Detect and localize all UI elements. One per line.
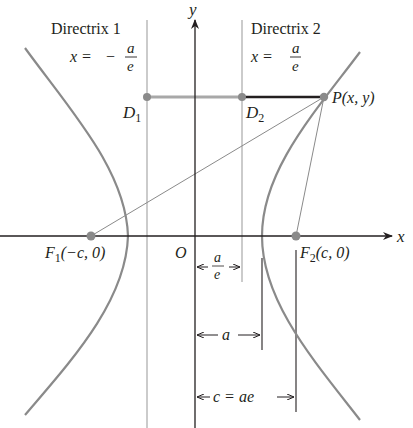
dim-a-over-e-num: a: [214, 250, 221, 265]
directrix-1-eq-sign: −: [106, 48, 115, 65]
point-D2: [238, 93, 246, 101]
x-axis-label: x: [396, 227, 405, 246]
F1-label: F1(−c, 0): [44, 244, 105, 265]
directrix-2-title: Directrix 2: [251, 20, 321, 37]
point-F2: [292, 232, 301, 241]
y-axis-label: y: [187, 0, 197, 19]
dim-a-label: a: [222, 326, 230, 343]
dim-a-over-e-den: e: [214, 267, 220, 282]
directrix-1-eq-den: e: [127, 58, 134, 74]
directrix-1-eq-lhs: x =: [69, 48, 92, 65]
directrix-2-eq-lhs: x =: [250, 48, 273, 65]
hyperbola-diagram: y x O Directrix 1 x = − a e Directrix 2 …: [0, 0, 413, 428]
D2-label: D2: [245, 103, 264, 125]
point-D1: [143, 93, 151, 101]
directrix-1-eq-num: a: [127, 40, 135, 56]
diagram-canvas: y x O Directrix 1 x = − a e Directrix 2 …: [0, 0, 413, 428]
origin-label: O: [175, 244, 187, 261]
P-label: P(x, y): [331, 89, 375, 107]
directrix-2-eq-den: e: [292, 58, 299, 74]
directrix-1-title: Directrix 1: [51, 20, 121, 37]
F2-label: F2(c, 0): [299, 244, 350, 265]
point-F1: [87, 232, 96, 241]
directrix-2-eq-num: a: [292, 40, 300, 56]
point-P: [320, 93, 328, 101]
hyperbola-left-branch: [25, 48, 128, 415]
D1-label: D1: [122, 103, 141, 125]
dim-c-label: c = ae: [213, 388, 254, 405]
